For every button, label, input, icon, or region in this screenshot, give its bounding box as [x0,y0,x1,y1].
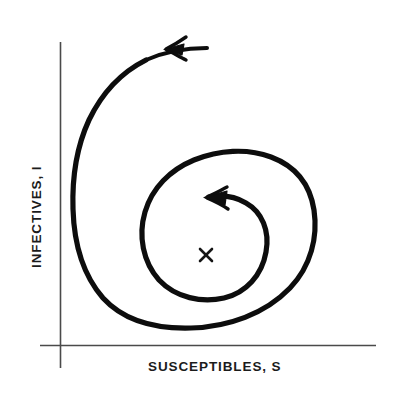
x-axis-label: SUSCEPTIBLES, S [148,360,282,374]
trajectory-spiral [73,60,315,328]
phase-portrait-figure: SUSCEPTIBLES, S INFECTIVES, I [0,0,394,396]
inner-flow-arrow [204,187,228,209]
y-axis-label: INFECTIVES, I [30,166,44,268]
equilibrium-point-marker [200,249,212,261]
outer-flow-arrow [164,37,186,60]
phase-portrait-canvas [0,0,394,396]
